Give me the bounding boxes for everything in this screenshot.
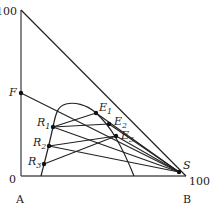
label-r2: R2 [32,136,46,151]
label-r1: R1 [36,116,50,131]
corner-b-label: B [183,193,191,206]
right-value-label: 100 [189,175,210,188]
point-r1 [51,125,55,129]
corner-a-label: A [15,193,25,206]
label-f: F [8,86,17,99]
axis-hypotenuse [21,10,186,176]
ternary-diagram: 100 0 100 A B F S E1 E2 E3 R1 R2 R3 [0,0,211,207]
label-e2: E2 [113,115,127,130]
label-e1: E1 [98,101,112,116]
point-s [177,170,181,174]
operating-line-r3 [44,136,116,164]
point-e1 [94,111,98,115]
origin-value-label: 0 [9,173,16,186]
point-f [19,91,23,95]
point-r2 [47,144,51,148]
top-value-label: 100 [0,5,17,18]
point-e3 [114,134,118,138]
point-e2 [107,122,111,126]
label-e3: E3 [120,129,134,144]
point-r3 [42,162,46,166]
label-r3: R3 [27,155,41,170]
label-s: S [183,159,191,172]
